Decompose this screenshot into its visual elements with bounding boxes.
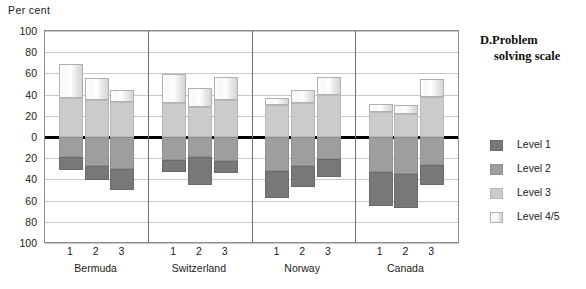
group-separator: [355, 31, 356, 242]
x-axis-tick-label: 2: [196, 245, 202, 257]
y-axis-tick-label: 20: [25, 110, 37, 122]
bar-segment-level45: [265, 98, 289, 105]
bar-segment-level45: [214, 77, 238, 100]
x-axis-tick-label: 3: [325, 245, 331, 257]
bar-segment-level3: [162, 103, 186, 137]
y-axis-tick-label: 60: [25, 195, 37, 207]
bar-segment-level1: [214, 161, 238, 173]
y-axis-tick-label: 100: [19, 25, 37, 37]
bar-segment-level1: [85, 166, 109, 181]
y-axis-tick-label: 100: [19, 237, 37, 249]
x-axis-tick-label: 3: [222, 245, 228, 257]
y-axis-tick-label: 20: [25, 152, 37, 164]
bar-segment-level45: [317, 77, 341, 95]
bar-segment-level45: [110, 90, 134, 102]
bar-segment-level45: [188, 88, 212, 107]
bar-segment-level45: [162, 74, 186, 103]
bar-segment-level3: [420, 97, 444, 137]
bar-segment-level2: [420, 137, 444, 165]
y-axis-tick-labels: 10080604020020406080100: [0, 30, 40, 243]
gridline: [45, 243, 458, 244]
y-axis-tick-label: 80: [25, 46, 37, 58]
y-axis-unit-label: Per cent: [8, 4, 50, 16]
y-axis-tick-label: 0: [31, 131, 37, 143]
bar-group-column: [214, 31, 238, 242]
x-axis-tick-label: 1: [273, 245, 279, 257]
x-axis-tick-label: 1: [170, 245, 176, 257]
chart-root: Per cent 10080604020020406080100 1231231…: [0, 0, 586, 289]
bar-group-column: [369, 31, 393, 242]
group-separator: [148, 31, 149, 242]
x-axis-tick-label: 2: [402, 245, 408, 257]
bar-group-column: [59, 31, 83, 242]
legend-items: Level 1Level 2Level 3Level 4/5: [490, 138, 586, 234]
legend-title-letter: D.: [480, 32, 492, 48]
bar-segment-level2: [394, 137, 418, 174]
bar-segment-level45: [394, 105, 418, 113]
bar-segment-level45: [369, 104, 393, 111]
bar-segment-level2: [59, 137, 83, 157]
bar-segment-level2: [369, 137, 393, 172]
bar-group-column: [317, 31, 341, 242]
bar-segment-level3: [214, 100, 238, 137]
bar-segment-level2: [265, 137, 289, 171]
bar-segment-level3: [265, 105, 289, 137]
bar-segment-level1: [369, 172, 393, 206]
bar-group-column: [394, 31, 418, 242]
x-axis-tick-labels: 123123123123: [44, 245, 459, 261]
bar-group-column: [188, 31, 212, 242]
legend-swatch: [490, 212, 503, 223]
bar-segment-level3: [188, 107, 212, 137]
bar-group-column: [420, 31, 444, 242]
bar-segment-level1: [265, 171, 289, 199]
x-axis-group-label: Bermuda: [74, 262, 117, 274]
bar-segment-level45: [291, 90, 315, 103]
bar-segment-level2: [85, 137, 109, 166]
legend-title-line1: Problem: [492, 33, 538, 47]
bar-segment-level1: [162, 160, 186, 172]
bar-segment-level1: [317, 159, 341, 177]
legend-label: Level 2: [517, 162, 551, 174]
legend-label: Level 1: [517, 138, 551, 150]
bar-segment-level3: [317, 95, 341, 137]
bar-segment-level1: [291, 166, 315, 187]
legend-swatch: [490, 164, 503, 175]
x-axis-group-labels: BermudaSwitzerlandNorwayCanada: [44, 262, 459, 278]
y-axis-tick-label: 60: [25, 67, 37, 79]
legend-row[interactable]: Level 3: [490, 186, 586, 210]
bar-segment-level2: [291, 137, 315, 166]
bar-segment-level1: [110, 169, 134, 190]
bar-segment-level45: [59, 64, 83, 98]
x-axis-group-label: Norway: [284, 262, 320, 274]
bar-group-column: [85, 31, 109, 242]
x-axis-group-label: Canada: [387, 262, 424, 274]
y-axis-tick-label: 40: [25, 89, 37, 101]
group-separator: [252, 31, 253, 242]
legend-row[interactable]: Level 1: [490, 138, 586, 162]
legend-row[interactable]: Level 2: [490, 162, 586, 186]
bar-segment-level2: [188, 137, 212, 157]
bar-group-column: [110, 31, 134, 242]
y-axis-tick-label: 80: [25, 216, 37, 228]
x-axis-tick-label: 1: [67, 245, 73, 257]
bar-segment-level3: [369, 112, 393, 137]
legend-label: Level 4/5: [517, 210, 560, 222]
legend-title-line2: solving scale: [480, 49, 560, 63]
plot-area: [44, 30, 459, 243]
legend-swatch: [490, 188, 503, 199]
bar-segment-level3: [291, 103, 315, 137]
legend-title: D.Problem solving scale: [480, 32, 584, 64]
legend-row[interactable]: Level 4/5: [490, 210, 586, 234]
x-axis-group-label: Switzerland: [172, 262, 226, 274]
bar-segment-level1: [188, 157, 212, 185]
legend-label: Level 3: [517, 186, 551, 198]
bar-group-column: [291, 31, 315, 242]
x-axis-tick-label: 1: [377, 245, 383, 257]
bar-segment-level1: [59, 157, 83, 170]
legend-swatch: [490, 140, 503, 151]
bar-segment-level2: [110, 137, 134, 169]
bar-segment-level1: [420, 165, 444, 185]
x-axis-tick-label: 3: [428, 245, 434, 257]
y-axis-tick-label: 40: [25, 173, 37, 185]
bar-segment-level3: [85, 100, 109, 137]
